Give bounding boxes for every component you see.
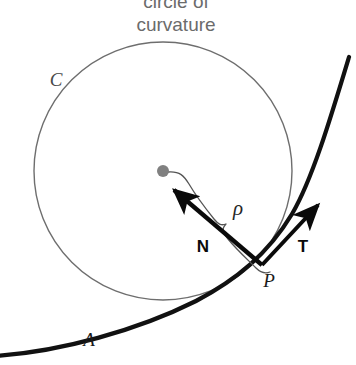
label-tangent-T: T xyxy=(298,237,309,256)
caption-line-2: curvature xyxy=(136,14,215,35)
caption-line-1: circle of xyxy=(143,0,209,12)
caption-block: circle of curvature xyxy=(136,0,215,35)
curve-A xyxy=(0,57,349,356)
label-radius-rho: ρ xyxy=(232,196,243,220)
normal-vector-N xyxy=(174,190,262,265)
curvature-diagram: circle of curvature C A P N T ρ xyxy=(0,0,356,365)
diagram-canvas: circle of curvature C A P N T ρ xyxy=(0,0,356,365)
label-point-P: P xyxy=(262,270,275,291)
label-circle-C: C xyxy=(50,69,63,90)
label-normal-N: N xyxy=(197,237,209,256)
label-curve-A: A xyxy=(81,329,95,350)
circle-center-dot xyxy=(157,165,169,177)
